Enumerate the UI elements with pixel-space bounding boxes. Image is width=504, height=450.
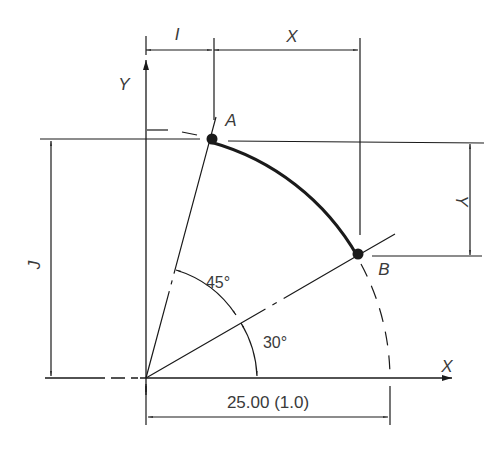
angle-45-label: 45°: [206, 274, 230, 291]
dimension-i: I: [146, 25, 212, 50]
dimension-y-label: Y: [452, 195, 471, 208]
dimension-j: J: [25, 141, 51, 376]
radius-line-a: [146, 117, 216, 378]
point-b-label: B: [378, 260, 389, 279]
point-a-label: A: [224, 111, 236, 130]
arc-diagram: I X J Y 25.00 (1.0) 45° 30°: [0, 0, 504, 450]
dimension-x: X: [214, 27, 358, 50]
dimension-radius: 25.00 (1.0): [146, 386, 390, 425]
dimension-x-label: X: [285, 27, 298, 46]
point-a-marker: [207, 134, 218, 145]
angle-30: 30°: [241, 323, 287, 376]
y-axis-label: Y: [118, 75, 131, 94]
center-mark-dash: [182, 132, 197, 135]
angle-30-label: 30°: [263, 334, 287, 351]
angle-45: 45°: [176, 270, 236, 315]
dimension-y: Y: [452, 144, 471, 255]
dimension-j-label: J: [25, 260, 44, 270]
radius-dimension-label: 25.00 (1.0): [227, 393, 309, 412]
x-axis-label: X: [440, 357, 453, 376]
a-horizontal-extension: [228, 141, 484, 143]
arc-a-to-b: [211, 142, 357, 256]
dimension-i-label: I: [175, 25, 180, 44]
arc-continuation: [361, 264, 390, 378]
point-b-marker: [353, 249, 364, 260]
